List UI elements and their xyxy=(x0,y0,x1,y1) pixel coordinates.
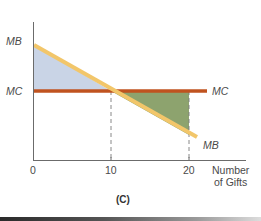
x-tick-label-10: 10 xyxy=(105,164,117,176)
mc-line-label: MC xyxy=(212,85,229,97)
bottom-edge-bar xyxy=(0,217,261,221)
x-axis-title-line1: Number xyxy=(212,164,250,176)
mb-line-label: MB xyxy=(203,139,219,151)
mc-axis-label: MC xyxy=(6,85,23,97)
x-axis-title-line2: of Gifts xyxy=(214,176,247,188)
x-tick-label-20: 20 xyxy=(183,164,195,176)
panel-caption: (C) xyxy=(116,194,130,205)
x-tick-label-0: 0 xyxy=(30,164,36,176)
mb-axis-label: MB xyxy=(6,35,22,47)
chart-canvas: MB MC MC MB 0 10 20 Number of Gifts (C) xyxy=(0,0,261,221)
green-shaded-area xyxy=(111,91,189,135)
